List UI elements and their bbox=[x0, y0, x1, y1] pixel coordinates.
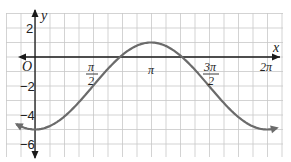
y-axis-label: y bbox=[39, 8, 48, 23]
tick-numerator: 3π bbox=[203, 60, 217, 74]
cosine-graph: y x O 2 −2 −4 −6 π 2 π 3π 2 2π bbox=[0, 0, 291, 162]
tick-denominator: 2 bbox=[208, 74, 214, 88]
y-tick-minus-4: −4 bbox=[20, 108, 35, 123]
x-axis bbox=[18, 54, 280, 61]
y-tick-minus-2: −2 bbox=[20, 79, 35, 94]
grid-lines bbox=[6, 13, 283, 157]
x-tick-3pi-over-2: 3π 2 bbox=[203, 60, 219, 88]
y-axis-arrow-up-icon bbox=[32, 9, 39, 17]
x-tick-2pi: 2π bbox=[260, 60, 273, 74]
origin-label: O bbox=[22, 59, 32, 74]
y-tick-2: 2 bbox=[26, 21, 33, 36]
y-tick-minus-6: −6 bbox=[20, 137, 35, 152]
tick-denominator: 2 bbox=[88, 74, 94, 88]
tick-numerator: π bbox=[88, 60, 95, 74]
x-axis-label: x bbox=[272, 40, 280, 55]
y-axis-arrow-down-icon bbox=[32, 151, 39, 159]
x-tick-pi: π bbox=[148, 63, 155, 77]
